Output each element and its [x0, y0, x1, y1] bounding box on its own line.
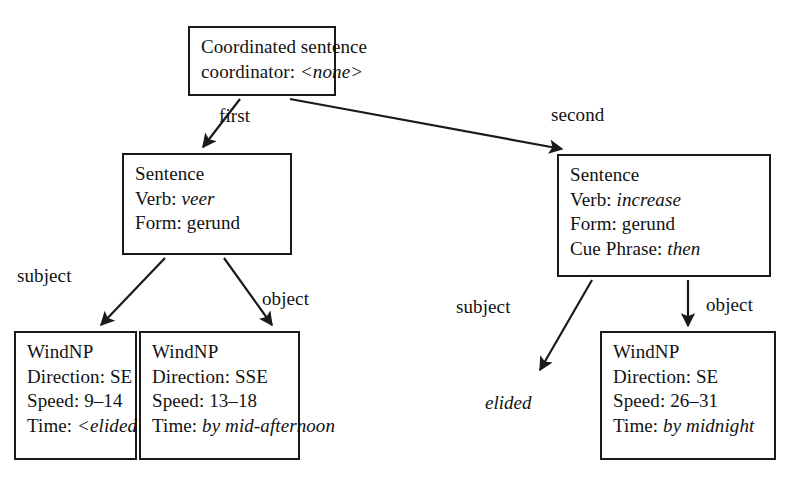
node-line: Sentence — [135, 162, 279, 187]
node-windnp-object-first[interactable]: WindNP Direction: SSE Speed: 13–18 Time:… — [139, 331, 300, 460]
node-line: Direction: SE — [27, 365, 124, 390]
node-line-value: <none> — [300, 61, 363, 82]
node-sentence-first[interactable]: Sentence Verb: veer Form: gerund — [122, 153, 292, 255]
node-line-label: WindNP — [27, 341, 93, 362]
node-coordinated-sentence[interactable]: Coordinated sentence coordinator: <none> — [188, 26, 336, 96]
node-line: Direction: SE — [613, 365, 763, 390]
node-line-label: Verb: — [135, 188, 177, 209]
node-line-label: Direction: — [27, 366, 105, 387]
node-line: Verb: veer — [135, 187, 279, 212]
edge-label-object-2: object — [706, 294, 753, 316]
node-line: Speed: 9–14 — [27, 389, 124, 414]
edge-label-subject-1: subject — [17, 265, 72, 287]
node-line-value: by mid-afternoon — [202, 415, 335, 436]
node-line: Coordinated sentence — [201, 35, 323, 60]
node-windnp-object-second[interactable]: WindNP Direction: SE Speed: 26–31 Time: … — [600, 331, 776, 460]
node-line: Form: gerund — [570, 212, 758, 237]
node-line-label: Speed: — [152, 390, 204, 411]
node-line-label: coordinator: — [201, 61, 295, 82]
node-line-label: Speed: — [613, 390, 665, 411]
node-line-value: 13–18 — [209, 390, 257, 411]
node-line-label: Sentence — [135, 163, 204, 184]
node-line-value: by midnight — [663, 415, 754, 436]
edge-label-subject-2: subject — [456, 296, 511, 318]
edge-second-line — [290, 99, 562, 149]
node-line-label: Speed: — [27, 390, 79, 411]
node-line-value: veer — [182, 188, 215, 209]
node-line: Cue Phrase: then — [570, 237, 758, 262]
node-line: Verb: increase — [570, 188, 758, 213]
node-line-label: Direction: — [152, 366, 230, 387]
edge-subject-2-line — [540, 280, 592, 370]
node-line: coordinator: <none> — [201, 60, 323, 85]
node-line: Speed: 26–31 — [613, 389, 763, 414]
node-line: Time: by mid-afternoon — [152, 414, 287, 439]
node-line-label: Form: — [135, 212, 182, 233]
node-line-label: Time: — [27, 415, 72, 436]
node-line-value: SE — [110, 366, 132, 387]
node-line: WindNP — [152, 340, 287, 365]
leaf-elided: elided — [485, 392, 531, 414]
node-line-label: WindNP — [613, 341, 679, 362]
node-line-value: gerund — [622, 213, 675, 234]
edge-label-object-1: object — [262, 288, 309, 310]
node-line-label: Form: — [570, 213, 617, 234]
node-line-value: gerund — [187, 212, 240, 233]
node-line-value: 9–14 — [84, 390, 122, 411]
node-line-value: SE — [696, 366, 718, 387]
node-line: Time: by midnight — [613, 414, 763, 439]
node-line-label: Coordinated sentence — [201, 36, 367, 57]
edge-subject-1-line — [101, 258, 165, 325]
node-line-label: Verb: — [570, 189, 612, 210]
node-line: Sentence — [570, 163, 758, 188]
node-line: WindNP — [27, 340, 124, 365]
node-sentence-second[interactable]: Sentence Verb: increase Form: gerund Cue… — [557, 154, 771, 277]
node-line-value: SSE — [235, 366, 268, 387]
node-line-value: then — [667, 238, 700, 259]
edge-label-second: second — [551, 104, 604, 126]
node-line: WindNP — [613, 340, 763, 365]
node-line-label: Cue Phrase: — [570, 238, 662, 259]
node-line: Time: <elided> — [27, 414, 124, 439]
edge-label-first: first — [219, 105, 250, 127]
node-line-label: Time: — [613, 415, 658, 436]
node-line-label: Sentence — [570, 164, 639, 185]
diagram-canvas: Coordinated sentence coordinator: <none>… — [0, 0, 811, 482]
node-line: Form: gerund — [135, 211, 279, 236]
node-line-label: Time: — [152, 415, 197, 436]
node-line-label: Direction: — [613, 366, 691, 387]
node-windnp-subject-first[interactable]: WindNP Direction: SE Speed: 9–14 Time: <… — [14, 331, 137, 460]
node-line-label: WindNP — [152, 341, 218, 362]
node-line: Direction: SSE — [152, 365, 287, 390]
node-line-value: increase — [617, 189, 681, 210]
node-line: Speed: 13–18 — [152, 389, 287, 414]
node-line-value: 26–31 — [670, 390, 718, 411]
